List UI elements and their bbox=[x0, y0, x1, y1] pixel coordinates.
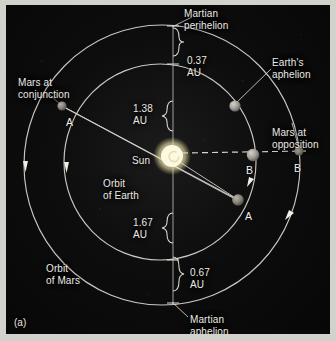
label-1-38-au: 1.38 AU bbox=[133, 103, 153, 126]
label-martian-perihelion: Martian perihelion bbox=[184, 8, 228, 31]
point-label-b-earth: B bbox=[246, 164, 253, 176]
label-mars-at-conjunction: Mars at conjunction bbox=[18, 77, 70, 100]
label-0-67-au: 0.67 AU bbox=[190, 267, 210, 290]
label-1-67-au: 1.67 AU bbox=[133, 217, 153, 240]
earth-aphelion-body bbox=[229, 100, 240, 111]
label-earths-aphelion: Earth's aphelion bbox=[272, 57, 311, 80]
brace-0-37-au bbox=[173, 28, 184, 56]
label-orbit-of-earth: Orbit of Earth bbox=[103, 178, 139, 201]
point-label-a-earth: A bbox=[245, 210, 252, 222]
figure-frame: Martian perihelion 0.37 AU Earth's aphel… bbox=[0, 0, 336, 341]
brace-0-67-au bbox=[173, 257, 184, 291]
label-mars-at-opposition: Mars at opposition bbox=[272, 127, 319, 150]
panel-tag: (a) bbox=[14, 317, 26, 328]
mars-at-conjunction-body bbox=[57, 101, 66, 110]
brace-1-38-au bbox=[162, 101, 173, 131]
label-martian-aphelion: Martian aphelion bbox=[190, 314, 229, 334]
label-orbit-of-mars: Orbit of Mars bbox=[46, 263, 80, 286]
diagram-canvas: Martian perihelion 0.37 AU Earth's aphel… bbox=[6, 5, 330, 334]
label-0-37-au: 0.37 AU bbox=[187, 55, 207, 78]
sun-body bbox=[161, 145, 183, 167]
brace-1-67-au bbox=[162, 213, 173, 243]
opposition-sight-line bbox=[182, 151, 306, 153]
point-label-b-mars: B bbox=[294, 162, 301, 174]
earth-at-b-body bbox=[247, 149, 259, 161]
point-label-a-conjunction: A bbox=[66, 116, 73, 128]
leader-earths-aphelion bbox=[234, 69, 271, 105]
earth-at-a-body bbox=[232, 194, 244, 206]
label-sun: Sun bbox=[132, 155, 150, 167]
